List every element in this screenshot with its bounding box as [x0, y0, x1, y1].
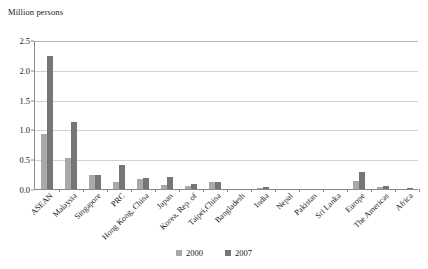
bar-group [227, 41, 251, 189]
bar [65, 158, 71, 189]
bars-layer [35, 41, 418, 189]
bar [143, 178, 149, 189]
bar [209, 182, 215, 189]
bar-chart: Million persons 0.00.51.01.52.02.5 ASEAN… [0, 0, 428, 269]
bar-group [275, 41, 299, 189]
bar-group [155, 41, 179, 189]
x-axis-tick-label: Sri Lanka [314, 192, 342, 220]
bar [263, 187, 269, 189]
x-axis-tick-label: Africa [394, 192, 415, 213]
x-axis-tick-label: India [253, 192, 271, 210]
bar [89, 175, 95, 189]
bar [113, 182, 119, 189]
x-axis-tick-mark [419, 189, 420, 192]
bar [119, 165, 125, 189]
y-axis-unit-title: Million persons [8, 7, 63, 17]
bar [47, 56, 53, 190]
bar [257, 188, 263, 189]
y-axis-tick-label: 0.5 [0, 156, 34, 165]
bar-group [131, 41, 155, 189]
x-axis-tick-label: Hong Kong, China [101, 192, 151, 242]
bar [41, 134, 47, 189]
bar-group [395, 41, 419, 189]
bar [71, 122, 77, 189]
bar [383, 186, 389, 189]
bar [185, 186, 191, 189]
bar-group [35, 41, 59, 189]
bar-group [107, 41, 131, 189]
bar-group [59, 41, 83, 189]
bar [167, 177, 173, 189]
y-axis-tick-label: 2.5 [0, 37, 34, 46]
bar-group [299, 41, 323, 189]
y-axis-tick-label: 1.5 [0, 96, 34, 105]
bar [161, 185, 167, 189]
chart-legend: 20002007 [0, 249, 428, 258]
x-axis-tick-label: PRC [110, 192, 127, 209]
bar [137, 179, 143, 189]
legend-item: 2007 [225, 249, 252, 258]
bar [353, 181, 359, 189]
bar [377, 187, 383, 189]
bar [407, 188, 413, 189]
bar-group [323, 41, 347, 189]
legend-item: 2000 [176, 249, 203, 258]
bar [359, 172, 365, 189]
x-axis-tick-label: Japan [156, 192, 175, 211]
bar [215, 182, 221, 189]
y-axis-tick-label: 0.0 [0, 186, 34, 195]
bar-group [347, 41, 371, 189]
bar-group [251, 41, 275, 189]
legend-swatch-icon [176, 250, 182, 256]
plot-area [34, 41, 418, 190]
y-axis-tick-label: 1.0 [0, 126, 34, 135]
bar-group [83, 41, 107, 189]
bar [95, 175, 101, 189]
bar-group [179, 41, 203, 189]
legend-label: 2000 [186, 249, 203, 258]
x-axis-tick-label: Nepal [275, 192, 295, 212]
bar [191, 184, 197, 189]
y-axis-tick-label: 2.0 [0, 67, 34, 76]
bar-group [203, 41, 227, 189]
bar-group [371, 41, 395, 189]
legend-label: 2007 [235, 249, 252, 258]
legend-swatch-icon [225, 250, 231, 256]
x-axis-category-labels: ASEANMalaysiaSingaporePRCHong Kong, Chin… [34, 192, 418, 246]
